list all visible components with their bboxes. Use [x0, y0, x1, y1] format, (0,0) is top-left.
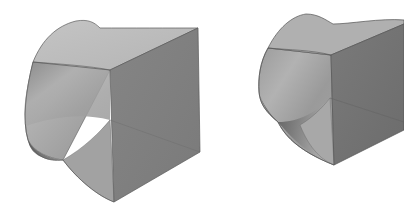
- right-solid: [259, 14, 404, 165]
- left-solid: [24, 20, 200, 202]
- shapes-canvas: [0, 0, 404, 216]
- figure: [0, 0, 404, 216]
- left-solid-upper-curved-face: [24, 62, 110, 126]
